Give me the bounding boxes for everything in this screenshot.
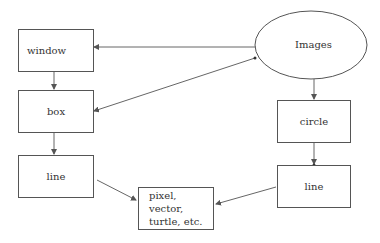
node-pixel-label-1: pixel, vector, (149, 189, 213, 215)
node-box: box (18, 90, 94, 133)
node-pixel-label-2: turtle, etc. (149, 215, 213, 228)
node-line-right: line (277, 165, 351, 208)
node-box-label: box (47, 106, 65, 117)
node-line-right-label: line (305, 181, 324, 192)
edge-line-pixel-right (216, 187, 276, 204)
edge-images-box (94, 58, 255, 111)
node-window: window (18, 29, 94, 72)
node-circle: circle (277, 100, 351, 143)
images-label: Images (295, 39, 332, 50)
node-window-label: window (27, 45, 66, 56)
node-circle-label: circle (300, 116, 328, 127)
node-line-left-label: line (47, 171, 66, 182)
node-pixel: pixel, vector, turtle, etc. (138, 187, 214, 230)
edge-line-pixel (97, 180, 136, 200)
node-line-left: line (18, 155, 94, 198)
